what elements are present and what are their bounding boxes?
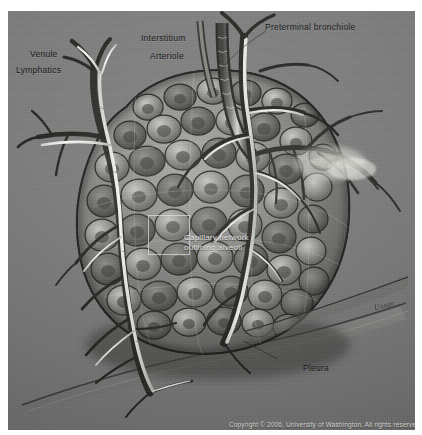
label-preterminal-bronchiole: Preterminal bronchiole	[265, 22, 356, 32]
label-arteriole: Arteriole	[150, 51, 184, 61]
copyright-notice: Copyright © 2006, University of Washingt…	[229, 421, 415, 428]
label-pleura: Pleura	[303, 363, 329, 373]
figure-container: Venule Lymphatics Interstitium Arteriole…	[0, 0, 422, 435]
label-venule: Venule	[30, 49, 58, 59]
label-lymphatics: Lymphatics	[16, 65, 61, 75]
label-capillary-network-line2: outlining alveoli	[184, 243, 242, 254]
illustration-artwork	[8, 11, 415, 430]
label-capillary-network-line1: Capillary network	[184, 233, 249, 244]
illustration-plate: Venule Lymphatics Interstitium Arteriole…	[8, 11, 415, 430]
label-interstitium: Interstitium	[141, 33, 186, 43]
